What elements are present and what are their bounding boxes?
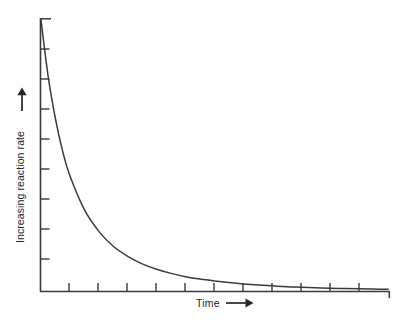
plot-area: [0, 0, 409, 324]
reaction-rate-decay-curve: [41, 20, 388, 289]
y-axis-label-group: Increasing reaction rate: [9, 96, 31, 278]
x-axis-label-group: Time: [196, 294, 255, 312]
x-axis-label: Time: [196, 297, 220, 309]
up-arrow-icon: [13, 86, 31, 112]
reaction-rate-decay-figure: Increasing reaction rate Time: [0, 0, 409, 324]
right-arrow-icon: [225, 296, 255, 310]
y-axis-label: Increasing reaction rate: [14, 131, 26, 243]
